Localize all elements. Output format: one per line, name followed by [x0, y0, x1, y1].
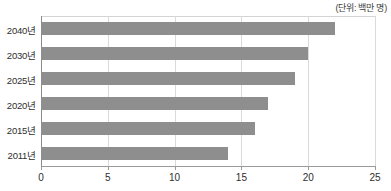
bar-2025년 [41, 72, 295, 85]
x-tick-mark-0 [41, 166, 42, 170]
bar-chart-figure: (단위: 백만 명) 2040년2030년2025년2020년2015년2011… [0, 0, 391, 191]
x-tick-mark-10 [175, 166, 176, 170]
gridline-10 [175, 16, 176, 166]
bar-2015년 [41, 122, 255, 135]
y-tick-label-2040년: 2040년 [7, 23, 36, 37]
bar-row [41, 122, 375, 135]
plot-area [41, 16, 375, 166]
plot-top-border [41, 16, 375, 17]
x-tick-mark-20 [308, 166, 309, 170]
x-tick-mark-25 [375, 166, 376, 170]
gridline-20 [308, 16, 309, 166]
x-axis-line [41, 166, 375, 167]
y-axis-tick-labels: 2040년2030년2025년2020년2015년2011년 [0, 16, 36, 166]
y-tick-label-2020년: 2020년 [7, 98, 36, 112]
x-tick-label-5: 5 [105, 172, 111, 183]
y-tick-label-2030년: 2030년 [7, 48, 36, 62]
bar-row [41, 47, 375, 60]
x-tick-mark-5 [108, 166, 109, 170]
bar-2020년 [41, 97, 268, 110]
unit-annotation: (단위: 백만 명) [336, 1, 388, 14]
bar-row [41, 22, 375, 35]
x-tick-label-0: 0 [38, 172, 44, 183]
y-tick-label-2025년: 2025년 [7, 73, 36, 87]
x-tick-label-20: 20 [303, 172, 314, 183]
bar-row [41, 147, 375, 160]
x-tick-label-25: 25 [369, 172, 380, 183]
bar-row [41, 97, 375, 110]
gridline-5 [108, 16, 109, 166]
x-tick-mark-15 [241, 166, 242, 170]
x-tick-label-15: 15 [236, 172, 247, 183]
bar-2030년 [41, 47, 308, 60]
bar-row [41, 72, 375, 85]
gridline-0 [41, 16, 42, 166]
x-tick-label-10: 10 [169, 172, 180, 183]
y-tick-label-2015년: 2015년 [7, 123, 36, 137]
gridline-15 [241, 16, 242, 166]
y-tick-label-2011년: 2011년 [8, 148, 36, 162]
bar-2011년 [41, 147, 228, 160]
bar-2040년 [41, 22, 335, 35]
gridline-25 [375, 16, 376, 166]
